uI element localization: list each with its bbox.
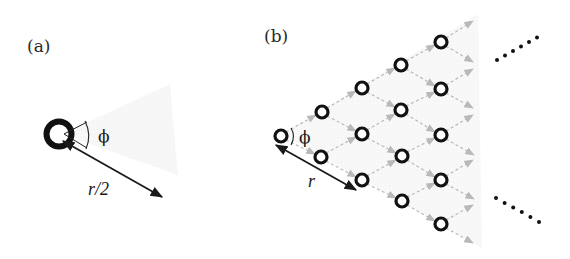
node xyxy=(435,174,447,186)
angle-phi-label-b: ϕ xyxy=(299,127,311,147)
node xyxy=(395,59,407,71)
ellipsis-bottom xyxy=(494,196,541,224)
ellipsis-top xyxy=(495,36,539,63)
panel-a: (a) ϕ r/2 xyxy=(27,36,178,199)
range-label-b: r xyxy=(308,171,316,191)
node xyxy=(435,218,447,230)
node xyxy=(356,174,368,186)
node xyxy=(315,151,327,163)
panel-a-label: (a) xyxy=(27,36,50,56)
node xyxy=(396,150,408,162)
node xyxy=(435,129,447,141)
node xyxy=(435,83,447,95)
node xyxy=(396,195,408,207)
range-label: r/2 xyxy=(88,179,109,199)
panel-b-label: (b) xyxy=(264,26,288,46)
emission-cone xyxy=(62,84,178,175)
angle-phi-label: ϕ xyxy=(98,126,110,146)
node xyxy=(356,82,368,94)
node xyxy=(435,36,447,48)
node xyxy=(316,106,328,118)
node xyxy=(275,130,287,142)
node xyxy=(395,104,407,116)
figure: (a) ϕ r/2 (b) xyxy=(0,0,570,259)
panel-b: (b) xyxy=(264,14,541,248)
node xyxy=(356,128,368,140)
